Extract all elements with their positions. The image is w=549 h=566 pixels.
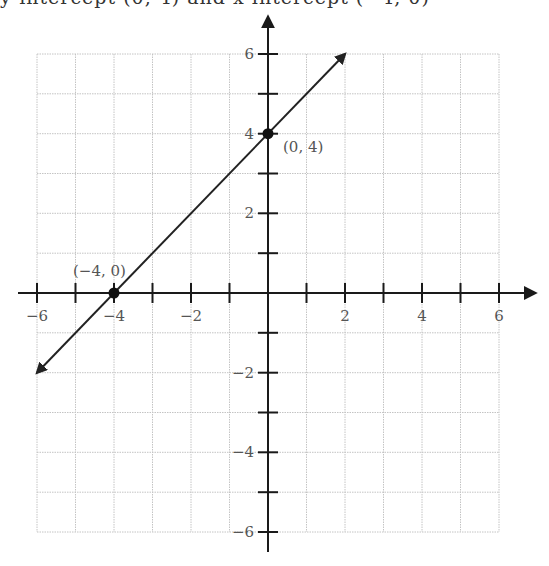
- y-tick-label-neg4: −4: [232, 443, 254, 461]
- x-tick-label-2: 2: [340, 307, 350, 325]
- x-tick-label-6: 6: [494, 307, 504, 325]
- point-y-intercept: [263, 128, 274, 139]
- y-tick-label-neg2: −2: [232, 364, 254, 382]
- y-tick-label-neg6: −6: [232, 523, 254, 541]
- x-tick-label-neg4: −4: [103, 307, 125, 325]
- point-x-intercept: [109, 288, 120, 299]
- x-tick-label-neg2: −2: [180, 307, 202, 325]
- y-tick-label-2: 2: [244, 204, 254, 222]
- coordinate-plane: −6 −4 −2 2 4 6 6 4 2 −2 −4 −6 (0, 4) (−4…: [0, 0, 549, 566]
- point-label-0-4: (0, 4): [283, 138, 323, 156]
- y-tick-label-4: 4: [244, 125, 254, 143]
- x-tick-label-4: 4: [417, 307, 427, 325]
- point-label-neg4-0: (−4, 0): [73, 262, 126, 280]
- y-tick-label-6: 6: [244, 45, 254, 63]
- x-tick-label-neg6: −6: [26, 307, 48, 325]
